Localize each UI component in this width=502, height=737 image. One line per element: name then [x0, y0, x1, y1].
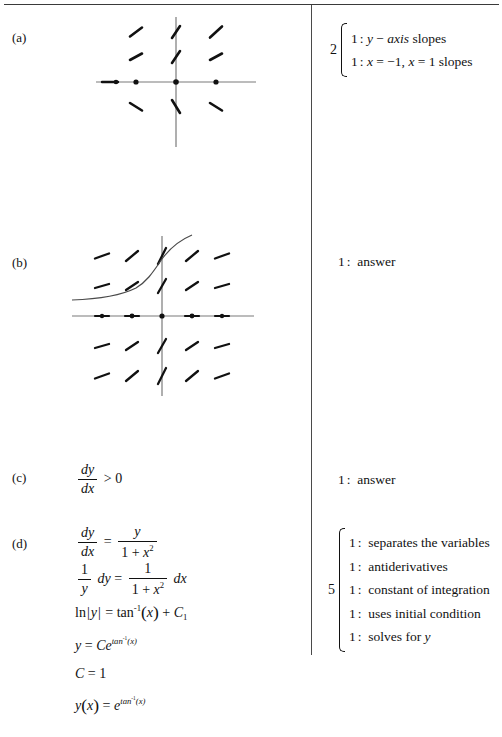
paren-close: ) [153, 602, 159, 622]
paren-close: ) [93, 695, 99, 715]
exponent-arctan: tan-1(x) [120, 696, 145, 706]
constant-subscript: 1 [183, 612, 187, 622]
rubric-brace-a [338, 22, 347, 78]
relation-operator: = [114, 571, 122, 586]
part-label-d: (d) [12, 536, 27, 552]
answer-key-page: (a) [0, 0, 502, 737]
rubric-line-num: 1 [349, 582, 356, 597]
rubric-line: 1: answer [338, 473, 396, 487]
column-divider [311, 5, 312, 655]
rubric-line: 1: y − axis slopes [351, 32, 473, 46]
rubric-part-b: 1: answer [338, 253, 396, 271]
fraction-numerator: dy [78, 525, 97, 543]
rubric-line-sep: : [347, 472, 351, 487]
rubric-line-num: 1 [351, 54, 358, 69]
exponent: 2 [160, 580, 164, 590]
fraction-denominator: dx [78, 480, 97, 497]
solution-curve-b [72, 235, 192, 300]
work-step-ode: dy dx = y 1 + x2 [75, 524, 160, 561]
fraction-denominator: y [78, 580, 91, 597]
rubric-line-sep: : [358, 606, 362, 621]
exponent-arg: (x) [136, 696, 146, 706]
rubric-line-text: answer [357, 472, 395, 487]
inverse-exponent: -1 [134, 603, 141, 613]
rubric-line-num: 1 [349, 606, 356, 621]
rubric-line: 1: x = −1, x = 1 slopes [351, 55, 473, 69]
part-label-a: (a) [12, 30, 26, 46]
rubric-line-text: answer [357, 254, 395, 269]
rubric-part-c: 1: answer [338, 471, 396, 489]
work-step-constant-value: C = 1 [75, 666, 106, 682]
rubric-line: 1: separates the variables [349, 536, 490, 550]
rubric-part-d: 5 1: separates the variables 1: antideri… [328, 527, 490, 653]
fraction-denominator: dx [78, 543, 97, 560]
rubric-line-sep: : [358, 582, 362, 597]
work-step-integrate: ln|y| = tan-1(x) + C1 [75, 602, 187, 623]
constant-C: C [75, 666, 84, 681]
work-step-exponentiate: y = Cetan-1(x) [75, 635, 137, 654]
page-top-rule [4, 4, 499, 5]
relation-operator: = [104, 534, 112, 549]
differential-dy: dy [98, 571, 111, 586]
figure-slope-field-b [62, 228, 262, 403]
expression-c: dy dx > 0 [75, 462, 122, 497]
fraction-y-over-1-plus-x2: y 1 + x2 [118, 524, 156, 561]
rubric-line: 1: solves for y [349, 630, 490, 644]
fraction-denominator: 1 + x2 [129, 579, 167, 598]
rubric-line: 1: antiderivatives [349, 560, 490, 574]
rubric-line-sep: : [360, 54, 364, 69]
rubric-line-text: separates the variables [368, 535, 489, 550]
rubric-line-sep: : [358, 535, 362, 550]
variable-y: y [75, 638, 81, 653]
abs-bar-close: | [97, 605, 102, 620]
rubric-line-text: uses initial condition [368, 606, 481, 621]
rubric-line-num: 1 [338, 472, 345, 487]
exponent: 2 [149, 543, 153, 553]
rubric-line-sep: : [347, 254, 351, 269]
fraction-1-over-1-plus-x2: 1 1 + x2 [129, 561, 167, 598]
fraction-denominator: 1 + x2 [118, 542, 156, 561]
rubric-line: 1: uses initial condition [349, 607, 490, 621]
integration-constant: C [174, 605, 183, 620]
rubric-line: 1: constant of integration [349, 583, 490, 597]
rubric-line-num: 1 [349, 559, 356, 574]
arctan-function: tan [117, 605, 134, 620]
exponent-arg: (x) [127, 636, 137, 646]
relation-operator: = [85, 638, 93, 653]
fraction-dy-dx: dy dx [78, 462, 97, 497]
rubric-line-text: constant of integration [368, 582, 489, 597]
fraction-1-over-y: 1 y [78, 562, 91, 597]
rubric-part-a: 2 1: y − axis slopes 1: x = −1, x = 1 sl… [330, 22, 473, 78]
rubric-line-num: 1 [338, 254, 345, 269]
relation-operator: = [103, 698, 111, 713]
fraction-numerator: y [118, 524, 156, 542]
rubric-points-a: 2 [330, 42, 337, 58]
fraction-numerator: 1 [78, 562, 91, 580]
exponent-func: tan [120, 696, 131, 706]
rubric-line-sep: : [358, 559, 362, 574]
rubric-line-sep: : [360, 31, 364, 46]
fraction-numerator: 1 [129, 561, 167, 579]
abs-variable: y [91, 605, 97, 620]
work-step-separate: 1 y dy = 1 1 + x2 dx [75, 561, 187, 598]
rubric-line-text: antiderivatives [368, 559, 447, 574]
plus-operator: + [162, 605, 170, 620]
rubric-line-num: 1 [349, 535, 356, 550]
rubric-line: 1: answer [338, 255, 396, 269]
exponent-func: tan [112, 636, 123, 646]
differential-dx: dx [174, 571, 187, 586]
rubric-line-text: x = −1, x = 1 slopes [367, 54, 473, 69]
part-label-b: (b) [12, 255, 27, 271]
rubric-line-num: 1 [349, 629, 356, 644]
rubric-brace-d [336, 527, 345, 653]
rubric-line-text: y − axis slopes [367, 31, 446, 46]
part-label-c: (c) [12, 470, 26, 486]
relation-operator: = [105, 605, 113, 620]
rubric-line-num: 1 [351, 31, 358, 46]
work-step-solution: y(x) = etan-1(x) [75, 695, 145, 716]
natural-log-label: ln [75, 605, 86, 620]
fraction-dy-dx: dy dx [78, 525, 97, 560]
figure-slope-field-a [68, 12, 268, 157]
exponent-arctan: tan-1(x) [112, 636, 137, 646]
rubric-line-sep: : [358, 629, 362, 644]
